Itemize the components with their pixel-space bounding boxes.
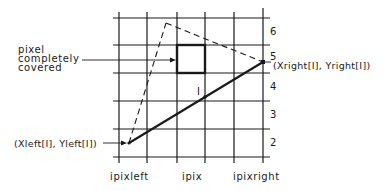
y-label-4: 4 (270, 81, 276, 92)
y-label-5: 5 (270, 51, 276, 62)
y-label-3: 3 (270, 109, 276, 120)
left-point-marker (127, 141, 130, 144)
left-point-label: (Xleft[I], Yleft[I]) (14, 138, 97, 149)
intersection-label: I (197, 86, 200, 97)
y-label-2: 2 (270, 137, 276, 148)
covered-label-line3: covered (18, 62, 62, 73)
x-label-ipix: ipix (182, 171, 202, 182)
x-label-ipixright: ipixright (233, 171, 280, 182)
pixel-grid (113, 8, 270, 163)
x-label-ipixleft: ipixleft (110, 171, 149, 182)
covered-pixel (177, 45, 205, 73)
right-point-label: (Xright[I], Yright[I]) (273, 60, 370, 71)
y-label-6: 6 (270, 26, 276, 37)
pixel-coverage-diagram: pixel completely covered (Xleft[I], Ylef… (0, 0, 383, 191)
intersection-marker (203, 95, 207, 99)
dashed-edges (129, 23, 263, 143)
